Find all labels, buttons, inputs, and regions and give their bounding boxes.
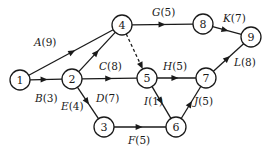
edge-label-D: D(7) [95,92,119,104]
edge-K [213,26,242,34]
node-7: 7 [196,68,216,88]
node-2: 2 [62,69,82,89]
arrowhead-icon [105,76,112,82]
edge-G [132,22,193,28]
node-1: 1 [10,70,30,90]
arrowhead-icon [171,75,178,81]
node-label: 6 [173,121,180,134]
dummy-edge-4-5 [126,34,142,69]
node-label: 8 [200,18,207,31]
edge-label-K: K(7) [222,12,246,24]
node-8: 8 [193,14,213,34]
node-6: 6 [166,117,186,137]
arrowhead-icon [137,61,143,69]
edge-label-A: A(9) [33,36,56,48]
edge-label-I: I(1) [143,95,163,107]
node-label: 9 [248,31,255,44]
edge-F [114,124,166,130]
node-3: 3 [94,117,114,137]
edge-label-J: J(5) [192,95,213,107]
edge-label-G: G(5) [152,6,175,18]
node-label: 4 [119,19,126,32]
arrowhead-icon [186,101,192,109]
edge-D [82,76,137,82]
edge-label-H: H(5) [162,60,187,72]
edge-label-E: E(4) [60,100,84,112]
node-5: 5 [137,68,157,88]
node-label: 1 [17,74,24,87]
node-label: 3 [101,121,108,134]
edge-label-F: F(5) [127,134,150,146]
arrowhead-icon [83,97,89,104]
edge-H [157,75,196,81]
node-label: 5 [144,72,151,85]
arrowhead-icon [159,22,166,28]
node-4: 4 [112,15,132,35]
arrowhead-icon [41,77,48,83]
arrowhead-icon [136,124,143,130]
edge-label-C: C(8) [99,60,122,72]
edge-B [30,77,62,83]
edge-label-L: L(8) [233,56,256,68]
node-9: 9 [241,27,261,47]
node-label: 7 [203,72,210,85]
activity-network-diagram: A(9)B(3)C(8)D(7)E(4)F(5)G(5)H(5)I(1)J(5)… [0,0,272,153]
node-label: 2 [69,73,76,86]
edge-label-B: B(3) [34,92,58,104]
